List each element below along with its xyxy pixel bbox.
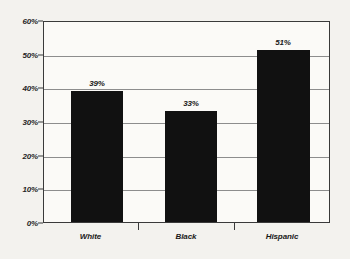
y-tick-label: 0% xyxy=(0,219,38,228)
y-tick-label: 40% xyxy=(0,84,38,93)
bar-value-hispanic: 51% xyxy=(256,38,310,47)
bar-chart: 60% 50% 40% 30% 20% 10% 0% 39% 33% 51% W… xyxy=(0,0,350,259)
y-tick-label: 20% xyxy=(0,151,38,160)
bar-white xyxy=(71,91,123,222)
y-tick-label: 50% xyxy=(0,50,38,59)
x-label-black: Black xyxy=(138,232,234,241)
bar-black xyxy=(165,111,217,222)
bar-hispanic xyxy=(257,50,310,222)
x-label-hispanic: Hispanic xyxy=(234,232,330,241)
bar-value-black: 33% xyxy=(164,99,218,108)
y-tick-label: 60% xyxy=(0,17,38,26)
x-axis-separator xyxy=(138,223,139,230)
x-axis-separator xyxy=(234,223,235,230)
y-tick-label: 30% xyxy=(0,118,38,127)
y-tick-label: 10% xyxy=(0,185,38,194)
x-label-white: White xyxy=(43,232,138,241)
plot-area xyxy=(43,21,330,223)
bar-value-white: 39% xyxy=(70,79,124,88)
